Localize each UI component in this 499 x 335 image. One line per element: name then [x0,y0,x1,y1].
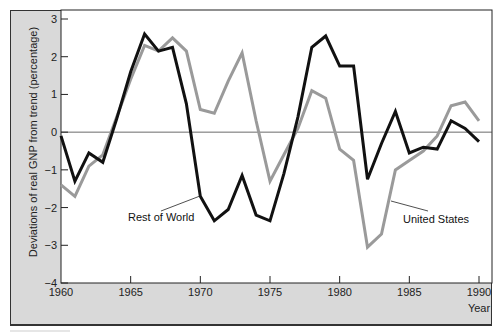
y-tick-label: 1 [51,88,57,100]
rest-of-world-label: Rest of World [128,211,194,223]
x-tick-label: 1965 [118,286,142,298]
united-states-label: United States [403,213,470,225]
x-tick-label: 1970 [188,286,212,298]
x-tick-label: 1975 [258,286,282,298]
y-tick-label: 3 [51,13,57,25]
y-tick-label: −3 [44,239,57,251]
x-tick-label: 1985 [397,286,421,298]
y-tick-label: −1 [44,164,57,176]
x-axis-title: Year [468,302,491,314]
y-tick-label: 0 [51,126,57,138]
line-chart: 3210−1−2−3−41960196519701975198019851990… [0,0,499,335]
x-tick-label: 1960 [49,286,73,298]
y-tick-label: 2 [51,51,57,63]
y-axis-title: Deviations of real GNP from trend (perce… [27,27,39,257]
x-tick-label: 1980 [327,286,351,298]
x-tick-label: 1990 [467,286,491,298]
y-tick-label: −2 [44,202,57,214]
caption-strip [10,330,70,332]
